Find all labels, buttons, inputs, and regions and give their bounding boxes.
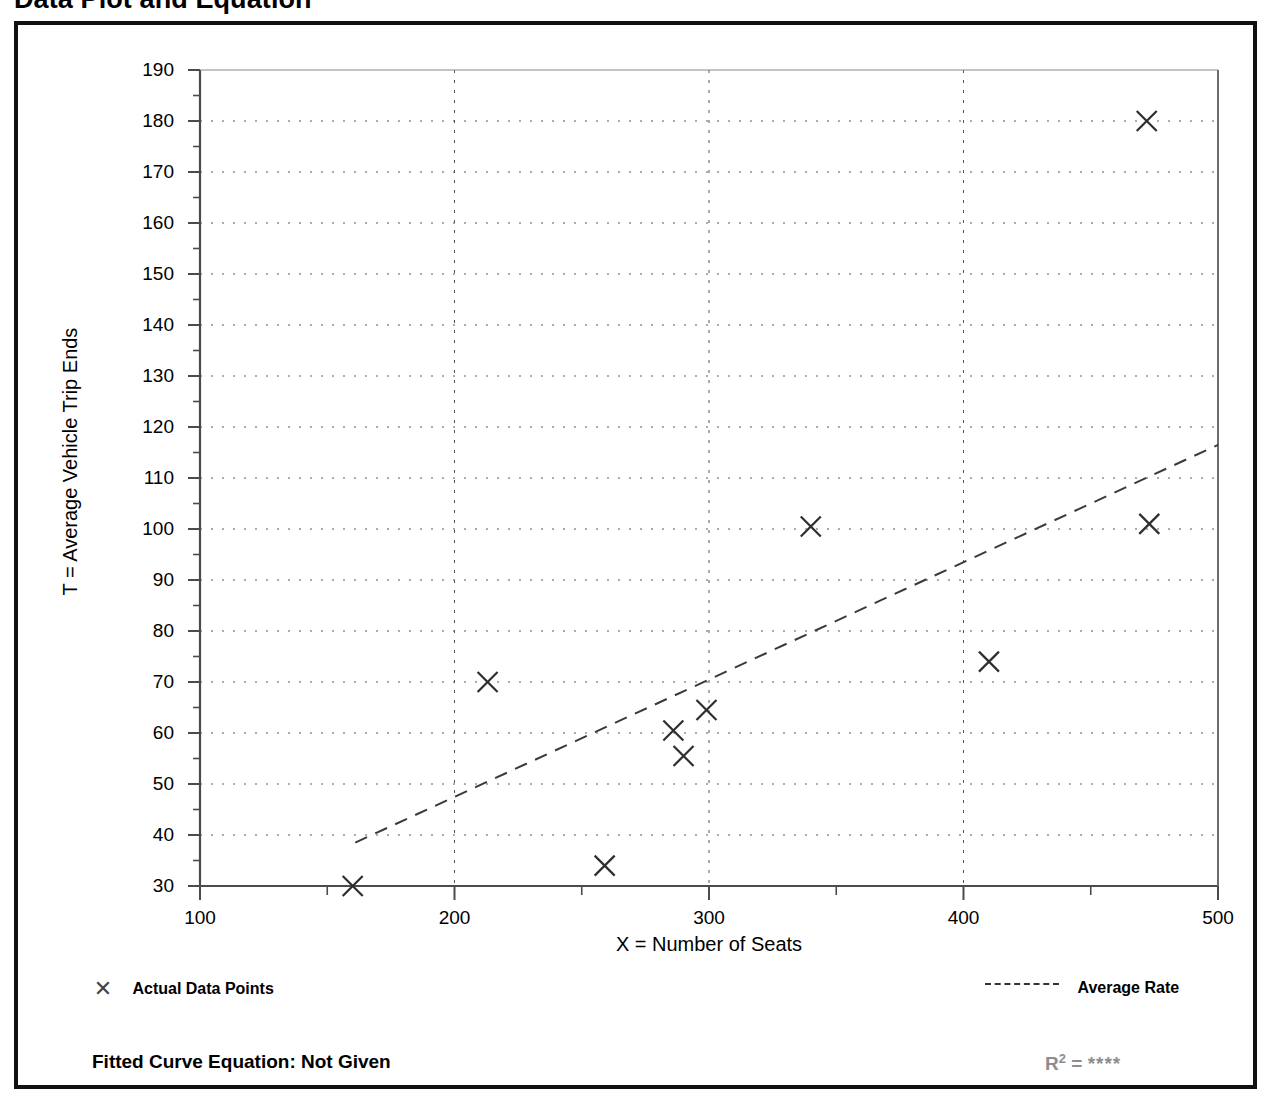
y-tick-label: 80 xyxy=(112,621,174,640)
data-point-marker xyxy=(674,746,694,766)
horizontal-gridlines xyxy=(200,121,1218,835)
x-tick-label: 200 xyxy=(410,908,500,927)
y-tick-label: 70 xyxy=(112,672,174,691)
y-axis-title: T = Average Vehicle Trip Ends xyxy=(59,252,82,672)
x-tick-label: 100 xyxy=(155,908,245,927)
y-tick-label: 50 xyxy=(112,774,174,793)
r-squared-prefix: R xyxy=(1045,1053,1059,1074)
y-tick-label: 140 xyxy=(112,315,174,334)
y-tick-label: 160 xyxy=(112,213,174,232)
r-squared-equals: = xyxy=(1066,1053,1088,1074)
dashed-line-icon xyxy=(985,983,1059,985)
x-marker-icon: ✕ xyxy=(92,978,114,1000)
r-squared-stars: **** xyxy=(1088,1053,1122,1074)
data-point-marker xyxy=(1137,111,1157,131)
data-point-marker xyxy=(979,652,999,672)
y-tick-label: 110 xyxy=(112,468,174,487)
y-tick-label: 170 xyxy=(112,162,174,181)
data-point-marker xyxy=(595,856,615,876)
y-tick-label: 60 xyxy=(112,723,174,742)
r-squared-value: R2 = **** xyxy=(1045,1051,1121,1075)
y-tick-label: 90 xyxy=(112,570,174,589)
axis-ticks xyxy=(188,70,1218,900)
legend-item-average-rate: Average Rate xyxy=(985,978,1179,997)
y-tick-label: 30 xyxy=(112,876,174,895)
data-point-marker xyxy=(478,672,498,692)
y-tick-label: 130 xyxy=(112,366,174,385)
y-tick-label: 100 xyxy=(112,519,174,538)
chart-plot-area: T = Average Vehicle Trip Ends X = Number… xyxy=(0,0,1272,1113)
legend-label-actual-data-points: Actual Data Points xyxy=(132,980,273,997)
legend-label-average-rate: Average Rate xyxy=(1077,979,1179,996)
x-axis-title: X = Number of Seats xyxy=(200,933,1218,956)
data-point-marker xyxy=(663,720,683,740)
x-tick-label: 500 xyxy=(1173,908,1263,927)
x-tick-label: 400 xyxy=(919,908,1009,927)
fitted-curve-equation: Fitted Curve Equation: Not Given xyxy=(92,1051,391,1073)
y-tick-label: 190 xyxy=(112,60,174,79)
data-point-marker xyxy=(696,700,716,720)
average-rate-trendline xyxy=(355,445,1218,843)
data-point-marker xyxy=(801,516,821,536)
data-point-markers xyxy=(343,111,1160,896)
y-tick-label: 180 xyxy=(112,111,174,130)
y-tick-label: 40 xyxy=(112,825,174,844)
data-point-marker xyxy=(1139,514,1159,534)
x-tick-label: 300 xyxy=(664,908,754,927)
y-tick-label: 120 xyxy=(112,417,174,436)
legend-item-actual-data-points: ✕ Actual Data Points xyxy=(92,978,274,1000)
r-squared-exponent: 2 xyxy=(1059,1051,1066,1066)
y-tick-label: 150 xyxy=(112,264,174,283)
